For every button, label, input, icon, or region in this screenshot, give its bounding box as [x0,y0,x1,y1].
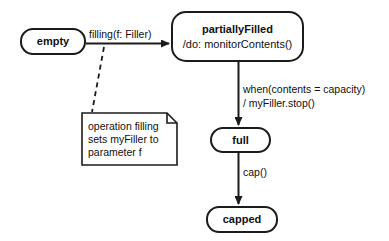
state-empty-label: empty [37,35,69,48]
state-capped-label: capped [223,213,262,226]
note-filling-line3: parameter f [88,146,174,159]
note-filling-line1: operation filling [88,120,174,133]
state-full[interactable]: full [210,127,271,153]
state-capped[interactable]: capped [206,206,278,233]
state-full-label: full [232,134,249,147]
note-filling[interactable]: operation filling sets myFiller to param… [81,112,178,166]
note-filling-text: operation filling sets myFiller to param… [88,120,174,159]
transition-label-cap: cap() [243,166,267,179]
transition-label-filling: filling(f: Filler) [89,28,151,41]
state-empty[interactable]: empty [20,28,86,55]
state-partially-filled[interactable]: partiallyFilled /do: monitorContents() [171,11,304,62]
transition-label-when-capacity-line2: / myFiller.stop() [243,96,365,110]
state-partially-filled-do-activity: /do: monitorContents() [183,37,292,51]
state-partially-filled-label: partiallyFilled [202,23,273,36]
note-filling-line2: sets myFiller to [88,133,174,146]
note-anchor-dashed-line [92,47,104,112]
transition-label-when-capacity-line1: when(contents = capacity) [243,82,365,96]
transition-label-when-capacity: when(contents = capacity) / myFiller.sto… [243,82,365,110]
state-machine-diagram: empty partiallyFilled /do: monitorConten… [0,0,389,241]
